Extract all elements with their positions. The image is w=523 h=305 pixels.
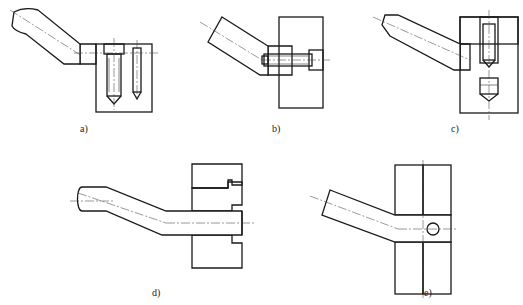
view-d: d) xyxy=(70,164,256,299)
label-e: e) xyxy=(424,287,432,299)
wall-b xyxy=(279,17,323,108)
view-c: c) xyxy=(373,10,518,135)
view-a: a) xyxy=(10,9,158,135)
drawing-canvas: a) b) c xyxy=(0,0,523,305)
wall-e-left-lower xyxy=(395,242,423,294)
label-a: a) xyxy=(80,123,88,135)
arm-b xyxy=(208,17,268,75)
wall-d-upper xyxy=(192,164,242,188)
wall-d-lower xyxy=(192,235,242,268)
view-b: b) xyxy=(200,17,330,135)
label-c: c) xyxy=(451,123,459,135)
label-b: b) xyxy=(272,123,280,135)
label-d: d) xyxy=(152,287,160,299)
arm-d xyxy=(78,187,243,235)
view-e: e) xyxy=(310,160,456,299)
arm-c xyxy=(382,15,460,70)
wall-e-left-upper xyxy=(395,165,423,215)
arm-a xyxy=(12,9,80,64)
wall-e-right-upper xyxy=(423,165,451,215)
